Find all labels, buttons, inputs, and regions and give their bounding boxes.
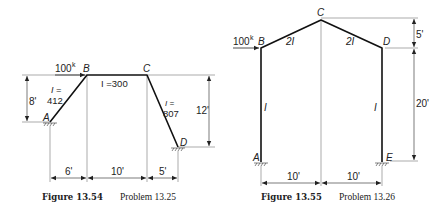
member-cd-label: 2I	[345, 36, 355, 47]
dim-span-3: 5'	[159, 166, 167, 177]
dim-rise: 5'	[416, 29, 424, 40]
joint-e-label: E	[386, 152, 393, 163]
figure-caption-problem: Problem 13.26	[339, 192, 395, 202]
load-value: 100	[55, 63, 72, 74]
dim-right-height: 12'	[196, 105, 209, 116]
extension-lines	[261, 18, 418, 186]
figure-13-54: 100 k B C A D I = 412 I =300 I = 807 8' …	[22, 61, 215, 202]
figure-caption-number: Figure 13.55	[261, 192, 322, 202]
joint-b-label: B	[258, 36, 265, 47]
fixed-support-e	[375, 163, 389, 166]
dim-column-height: 20'	[416, 98, 429, 109]
dim-left-height: 8'	[29, 96, 37, 107]
dim-span-2: 10'	[347, 171, 360, 182]
member-de-label: I	[374, 102, 377, 113]
member-bc-label: 2I	[285, 36, 295, 47]
joint-b-label: B	[83, 63, 90, 74]
dim-span-1: 10'	[287, 171, 300, 182]
joint-a-label: A	[252, 152, 260, 163]
fixed-support-d	[171, 148, 185, 151]
joint-d-label: D	[383, 36, 390, 47]
figure-caption-number: Figure 13.54	[42, 192, 103, 202]
load-unit: k	[250, 34, 254, 41]
figure-caption-problem: Problem 13.25	[120, 192, 176, 202]
joint-c-label: C	[317, 7, 325, 18]
member-ab-label: I	[264, 102, 267, 113]
diagram-canvas: 100 k B C A D I = 412 I =300 I = 807 8' …	[0, 0, 448, 211]
member-bc-label: I =300	[101, 78, 128, 89]
member-ab-label-2: 412	[47, 95, 63, 106]
member-ab-label-1: I =	[51, 85, 61, 95]
joint-c-label: C	[143, 63, 151, 74]
member-cd-label-1: I =	[165, 99, 174, 108]
figure-13-55: 100 k B C D A E I 2I 2I I 5' 20' 10' 10'…	[233, 7, 429, 202]
dim-span-2: 10'	[111, 166, 124, 177]
load-unit: k	[72, 61, 76, 68]
dim-span-1: 6'	[65, 166, 73, 177]
fixed-support-a	[254, 163, 268, 166]
member-cd-label-2: 807	[163, 108, 179, 119]
joint-d-label: D	[180, 137, 187, 148]
joint-a-label: A	[42, 112, 50, 123]
frame-members	[261, 20, 382, 162]
load-value: 100	[233, 36, 250, 47]
fixed-support-a	[43, 123, 57, 126]
